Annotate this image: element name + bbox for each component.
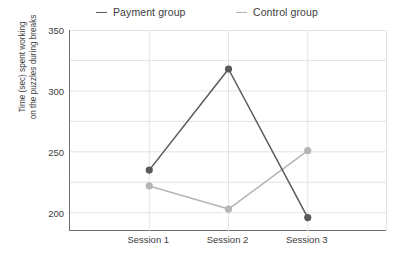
y-tick-label-250: 250 [30, 146, 64, 157]
data-point-payment-group-session-1 [146, 166, 153, 173]
legend-label-payment-group: Payment group [113, 6, 186, 18]
y-tick-label-350: 350 [30, 25, 64, 36]
x-tick-label-3: Session 3 [262, 234, 352, 245]
plot-svg [70, 30, 387, 231]
x-tick-label-2: Session 2 [183, 234, 273, 245]
y-tick-label-300: 300 [30, 85, 64, 96]
data-point-payment-group-session-3 [304, 214, 311, 221]
data-point-control-group-session-2 [225, 205, 232, 212]
y-tick-label-200: 200 [30, 207, 64, 218]
legend-swatch-control-group [236, 12, 247, 13]
legend-swatch-payment-group [96, 12, 107, 13]
y-axis-title-line-1: Time (sec) spent working [17, 0, 28, 157]
x-tick-label-1: Session 1 [103, 234, 193, 245]
plot-area [69, 30, 386, 231]
line-chart-figure: Payment group Control group Time (sec) s… [0, 0, 404, 261]
data-point-control-group-session-3 [304, 147, 311, 154]
x-axis-tick-labels: Session 1Session 2Session 3 [69, 234, 386, 254]
data-point-payment-group-session-2 [225, 65, 232, 72]
legend-entry-payment-group: Payment group [96, 6, 186, 18]
y-axis-tick-labels: 350300250200 [28, 0, 64, 261]
legend-label-control-group: Control group [253, 6, 318, 18]
data-point-control-group-session-1 [146, 182, 153, 189]
legend-entry-control-group: Control group [236, 6, 318, 18]
